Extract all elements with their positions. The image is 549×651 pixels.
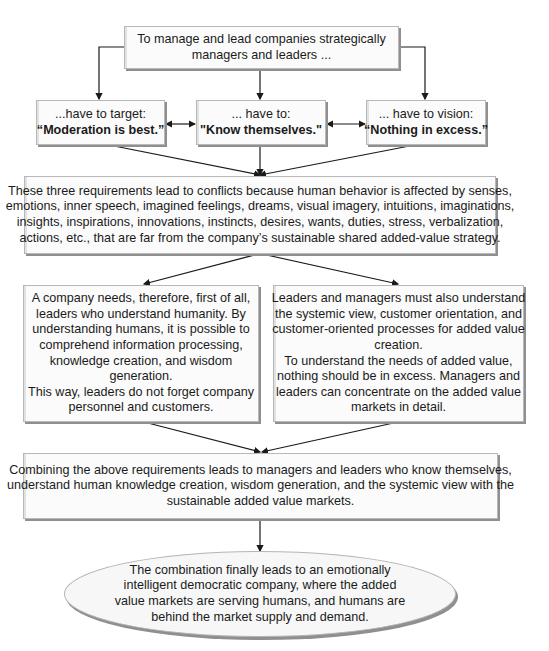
requirement-box-know-themselves: ... have to: "Know themselves."	[196, 100, 326, 145]
humanity-line-7: This way, leaders do not forget company	[28, 385, 254, 401]
systemic-line-5: To understand the needs of added value,	[284, 354, 512, 370]
requirement-motto: “Nothing in excess.”	[364, 123, 488, 139]
outcome-line-1: The combination finally leads to an emot…	[129, 563, 390, 579]
systemic-line-2: the systemic view, customer orientation,…	[275, 307, 522, 323]
top-box-line-1: To manage and lead companies strategical…	[137, 32, 386, 48]
systemic-line-6: nothing should be in excess. Managers an…	[277, 369, 520, 385]
systemic-line-7: leaders can concentrate on the added val…	[276, 385, 521, 401]
humanity-box: A company needs, therefore, first of all…	[23, 285, 259, 422]
conflict-line-2: emotions, inner speech, imagined feeling…	[6, 199, 515, 215]
top-box: To manage and lead companies strategical…	[124, 26, 399, 69]
conflict-box: These three requirements lead to conflic…	[24, 176, 496, 254]
requirement-motto: “Moderation is best.”	[37, 123, 164, 139]
combination-line-2: understand human knowledge creation, wis…	[7, 478, 514, 494]
conflict-line-3: insights, inspirations, innovations, ins…	[17, 215, 503, 231]
humanity-line-2: leaders who understand humanity. By	[36, 307, 246, 323]
conflict-line-4: actions, etc., that are far from the com…	[19, 231, 500, 247]
requirement-prefix: ... have to:	[232, 107, 291, 123]
humanity-line-3: understanding humans, it is possible to	[32, 322, 250, 338]
requirement-prefix: ...have to target:	[55, 107, 146, 123]
outcome-line-2: intelligent democratic company, where th…	[124, 578, 397, 594]
combination-line-1: Combining the above requirements leads t…	[9, 463, 512, 479]
top-box-line-2: managers and leaders ...	[192, 48, 331, 64]
humanity-line-1: A company needs, therefore, first of all…	[32, 291, 250, 307]
combination-box: Combining the above requirements leads t…	[23, 453, 498, 519]
humanity-line-6: generation.	[109, 369, 172, 385]
requirement-box-moderation: ...have to target: “Moderation is best.”	[36, 100, 165, 145]
requirement-prefix: ... have to vision:	[379, 107, 474, 123]
humanity-line-5: knowledge creation, and wisdom	[50, 354, 233, 370]
systemic-line-3: customer-oriented processes for added va…	[272, 322, 525, 338]
systemic-line-4: creation.	[374, 338, 422, 354]
conflict-line-1: These three requirements lead to conflic…	[8, 184, 512, 200]
humanity-line-8: personnel and customers.	[69, 400, 214, 416]
requirement-motto: "Know themselves."	[200, 123, 322, 139]
requirement-box-nothing-in-excess: ... have to vision: “Nothing in excess.”	[366, 100, 486, 145]
systemic-view-box: Leaders and managers must also understan…	[273, 285, 524, 422]
systemic-line-8: markets in detail.	[351, 400, 446, 416]
humanity-line-4: comprehend information processing,	[39, 338, 243, 354]
combination-line-3: sustainable added value markets.	[167, 494, 355, 510]
final-outcome-ellipse: The combination finally leads to an emot…	[64, 551, 456, 637]
outcome-line-4: behind the market supply and demand.	[151, 610, 369, 626]
systemic-line-1: Leaders and managers must also understan…	[272, 291, 525, 307]
outcome-line-3: value markets are serving humans, and hu…	[115, 594, 406, 610]
